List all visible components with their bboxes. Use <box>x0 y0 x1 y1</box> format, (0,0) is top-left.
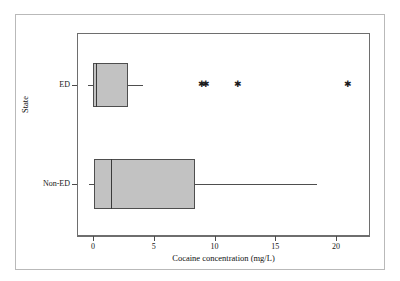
boxplot-figure: 05101520 EDNon-ED Cocaine concentration … <box>0 0 400 281</box>
median-line <box>111 159 112 209</box>
whisker-high <box>195 184 317 185</box>
box-iqr-rect <box>94 159 195 209</box>
box-non-ed <box>0 0 400 281</box>
